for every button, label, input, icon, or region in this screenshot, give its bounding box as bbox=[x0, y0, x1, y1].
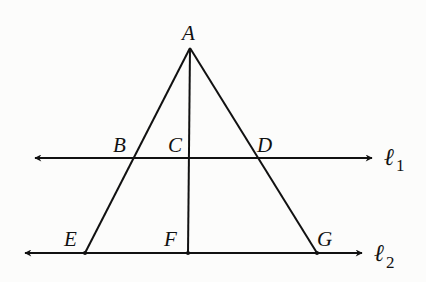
label-c: C bbox=[168, 133, 183, 157]
svg-text:1: 1 bbox=[396, 156, 405, 175]
point-e-dot bbox=[83, 251, 87, 255]
label-f: F bbox=[163, 227, 177, 251]
segment-ag bbox=[190, 48, 317, 253]
label-l2: ℓ 2 bbox=[374, 240, 395, 272]
geometry-diagram: A B C D E F G ℓ 1 ℓ 2 bbox=[0, 0, 426, 282]
svg-text:2: 2 bbox=[386, 253, 395, 272]
point-g-dot bbox=[315, 251, 319, 255]
label-e: E bbox=[63, 227, 77, 251]
label-b: B bbox=[113, 133, 126, 157]
label-l1: ℓ 1 bbox=[384, 144, 405, 175]
label-d: D bbox=[256, 133, 272, 157]
diagram-canvas: A B C D E F G ℓ 1 ℓ 2 bbox=[0, 0, 426, 282]
label-g: G bbox=[317, 227, 332, 251]
point-f-dot bbox=[186, 251, 190, 255]
label-a: A bbox=[180, 21, 195, 45]
svg-text:ℓ: ℓ bbox=[374, 240, 384, 266]
segment-af bbox=[188, 48, 190, 253]
svg-text:ℓ: ℓ bbox=[384, 144, 394, 170]
